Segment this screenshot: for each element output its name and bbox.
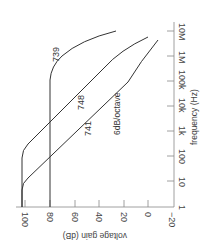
gain-tick: 80 — [45, 212, 55, 222]
label-741: 741 — [83, 121, 93, 136]
gain-tick: 60 — [70, 212, 80, 222]
frequency-axis — [167, 22, 174, 207]
gain-axis — [16, 200, 174, 207]
label-739: 739 — [51, 47, 61, 62]
freq-tick: 1 — [177, 205, 187, 210]
freq-tick: 100 — [177, 149, 187, 164]
gain-tick-labels: 100 80 60 40 20 0 −20 — [20, 212, 177, 227]
freq-tick: 10M — [177, 23, 187, 41]
frequency-tick-labels: 1 10 100 1k 10k 100k 1M 10M — [177, 23, 187, 210]
freq-tick: 10k — [177, 98, 187, 113]
label-748: 748 — [76, 95, 86, 110]
gain-tick: 20 — [119, 212, 129, 222]
freq-tick: 100k — [177, 70, 187, 90]
gain-axis-title: voltage gain (dB) — [63, 231, 127, 241]
freq-tick: 1k — [177, 126, 187, 136]
gain-tick: 40 — [94, 212, 104, 222]
gain-tick: 100 — [20, 212, 30, 227]
freq-tick: 10 — [177, 177, 187, 187]
gain-tick: 0 — [143, 212, 153, 217]
freq-tick: 1M — [177, 51, 187, 64]
gain-tick: −20 — [167, 212, 177, 227]
frequency-axis-title: frequency (Hz) — [189, 89, 199, 145]
gain-frequency-chart: 100 80 60 40 20 0 −20 1 10 100 1k 10k 10… — [0, 0, 212, 252]
slope-annotation: 6dB/octave — [112, 92, 122, 135]
